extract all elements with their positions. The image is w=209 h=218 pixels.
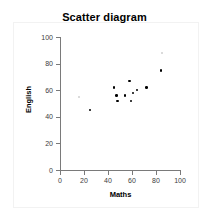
x-tick-label: 60	[122, 177, 142, 184]
x-axis-line	[60, 170, 181, 171]
y-tick-label: 80	[33, 60, 53, 67]
scatter-point	[128, 80, 131, 83]
x-tick-label: 20	[74, 177, 94, 184]
y-tick-label: 40	[33, 113, 53, 120]
x-axis-title: Maths	[60, 190, 181, 199]
scatter-point	[115, 94, 118, 97]
scatter-point	[145, 86, 148, 89]
scatter-point	[116, 100, 119, 103]
x-tick-label: 80	[146, 177, 166, 184]
x-tick-mark	[108, 171, 109, 175]
y-tick-label: 60	[33, 87, 53, 94]
x-tick-mark	[84, 171, 85, 175]
chart-screenshot: Scatter diagram English Maths 0204060801…	[0, 0, 209, 218]
y-tick-label: 100	[33, 34, 53, 41]
y-tick-label: 0	[33, 167, 53, 174]
chart-title: Scatter diagram	[0, 11, 209, 23]
scatter-point	[160, 69, 163, 72]
x-tick-mark	[60, 171, 61, 175]
x-tick-mark	[180, 171, 181, 175]
y-axis-title: English	[24, 70, 33, 130]
scatter-point	[124, 94, 127, 97]
x-tick-mark	[156, 171, 157, 175]
x-tick-mark	[132, 171, 133, 175]
y-tick-label: 20	[33, 140, 53, 147]
x-tick-label: 0	[50, 177, 70, 184]
scatter-plot-area	[60, 37, 180, 170]
x-tick-label: 100	[170, 177, 190, 184]
x-tick-label: 40	[98, 177, 118, 184]
